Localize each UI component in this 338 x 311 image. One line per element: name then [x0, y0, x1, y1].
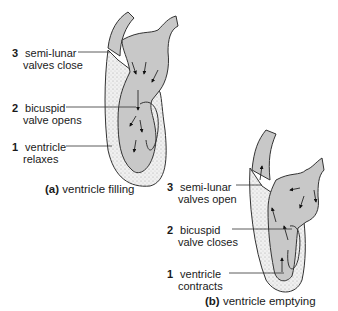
caption-b: (b) ventricle emptying	[205, 295, 316, 307]
label-b-bicuspid-closes: 2 bicuspid valve closes	[167, 224, 238, 248]
label-b-ventricle-contracts: 1 ventricle contracts	[167, 268, 223, 292]
label-b-semilunar-open: 3 semi-lunar valves open	[167, 181, 237, 205]
heart-a	[105, 12, 178, 186]
caption-a: (a) ventricle filling	[45, 183, 135, 195]
heart-b	[250, 130, 324, 292]
label-a-semilunar-close: 3 semi-lunar valves close	[12, 47, 83, 71]
label-a-bicuspid-opens: 2 bicuspid valve opens	[12, 102, 82, 126]
label-a-ventricle-relaxes: 1 ventricle relaxes	[12, 141, 66, 165]
